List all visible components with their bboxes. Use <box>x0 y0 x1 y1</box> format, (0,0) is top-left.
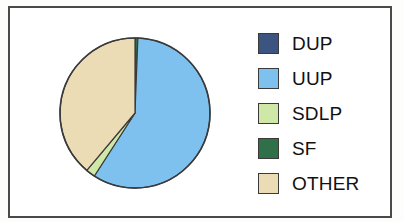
legend-label-uup: UUP <box>292 69 333 88</box>
legend-swatch-dup <box>258 33 279 54</box>
legend-label-sdlp: SDLP <box>292 104 342 123</box>
legend-item-other[interactable]: OTHER <box>258 166 398 201</box>
chart-frame: DUP UUP SDLP SF OTHER <box>8 6 392 218</box>
legend-swatch-other <box>258 173 279 194</box>
chart-legend: DUP UUP SDLP SF OTHER <box>258 26 398 216</box>
pie-chart <box>50 30 230 202</box>
legend-item-sf[interactable]: SF <box>258 131 398 166</box>
legend-item-uup[interactable]: UUP <box>258 61 398 96</box>
legend-label-other: OTHER <box>292 174 360 193</box>
legend-swatch-sf <box>258 138 279 159</box>
legend-item-dup[interactable]: DUP <box>258 26 398 61</box>
legend-swatch-sdlp <box>258 103 279 124</box>
chart-page: DUP UUP SDLP SF OTHER <box>0 0 404 222</box>
legend-label-dup: DUP <box>292 34 333 53</box>
legend-item-sdlp[interactable]: SDLP <box>258 96 398 131</box>
legend-label-sf: SF <box>292 139 317 158</box>
legend-swatch-uup <box>258 68 279 89</box>
pie-chart-svg <box>50 30 230 202</box>
